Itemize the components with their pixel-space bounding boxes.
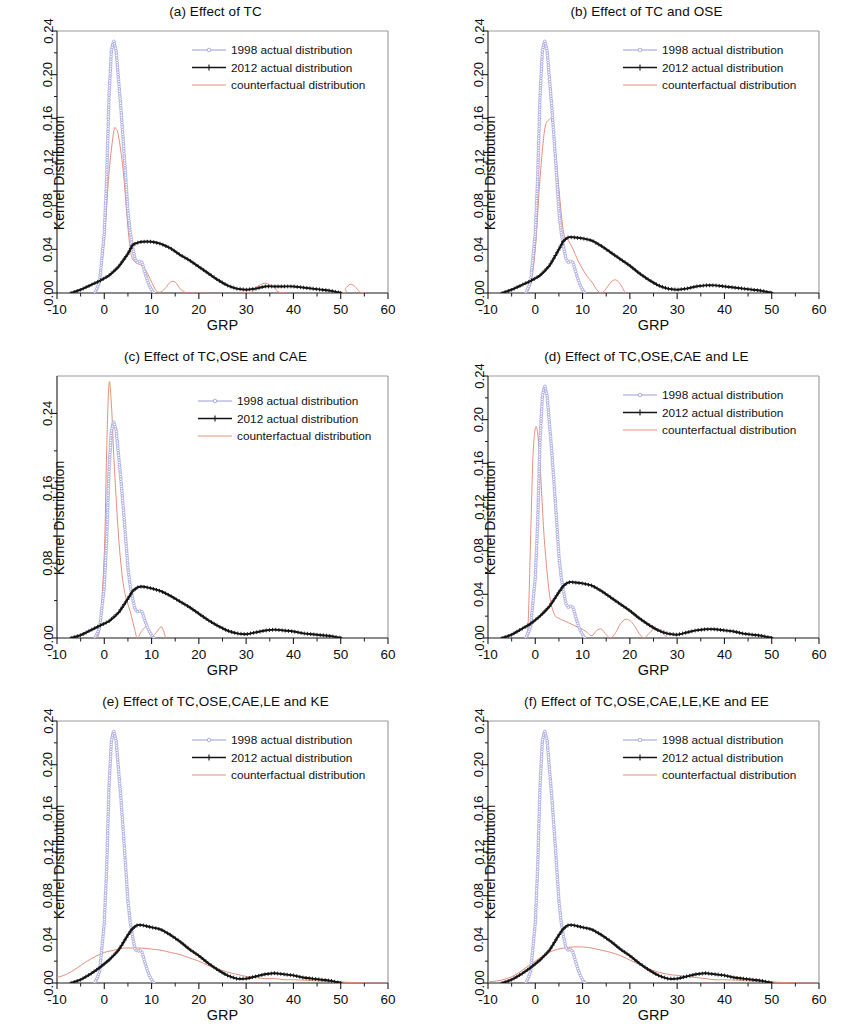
y-tick-label: 0.12 [41,149,56,174]
legend-item[interactable]: 1998 actual distribution [623,388,783,402]
x-tick-label: 10 [144,647,159,662]
x-tick-label: 40 [286,647,301,662]
y-tick-label: 0.08 [41,550,56,575]
legend-item[interactable]: counterfactual distribution [623,78,796,92]
y-tick-label: 0.08 [472,193,487,218]
data-point-marker [729,975,733,979]
data-point-marker [148,925,152,929]
panel-c: (c) Effect of TC,OSE and CAEKernel Distr… [0,345,431,690]
legend-item[interactable]: counterfactual distribution [198,429,371,443]
legend-item[interactable]: counterfactual distribution [623,423,796,437]
plot-area-a: 0.000.040.080.120.160.200.24-10010203040… [0,0,431,345]
x-axis-label: GRP [57,317,388,333]
data-point-marker [686,287,690,291]
legend-item[interactable]: 2012 actual distribution [623,406,783,420]
legend-item[interactable]: 2012 actual distribution [192,751,352,765]
x-tick-label: 20 [191,302,206,317]
legend-item[interactable]: 1998 actual distribution [192,733,352,747]
legend-item[interactable]: 2012 actual distribution [623,751,783,765]
y-tick-label: 0.16 [472,451,487,476]
legend-item[interactable]: counterfactual distribution [623,768,796,782]
data-point-marker [584,982,587,985]
data-point-marker [572,924,576,928]
legend-item[interactable]: 2012 actual distribution [623,61,783,75]
legend-item[interactable]: 2012 actual distribution [192,61,352,75]
series-2012 [69,923,342,985]
y-tick-label: 0.24 [41,18,56,43]
legend-marker-circle-icon [213,399,217,403]
x-tick-label: 60 [380,992,395,1007]
x-tick-label: -10 [478,647,498,662]
series-line [71,586,341,638]
x-tick-label: 20 [191,992,206,1007]
legend-label: 1998 actual distribution [237,394,358,408]
x-axis-label: GRP [488,317,819,333]
x-tick-label: 30 [239,992,254,1007]
data-point-marker [258,630,262,634]
y-tick-label: 0.04 [472,582,487,607]
y-tick-label: 0.20 [472,62,487,87]
legend-item[interactable]: 1998 actual distribution [198,394,358,408]
series-counterfactual [488,947,819,983]
panel-b: (b) Effect of TC and OSEKernel Distribut… [431,0,862,345]
x-tick-label: 0 [101,647,109,662]
panel-f: (f) Effect of TC,OSE,CAE,LE,KE and EEKer… [431,690,862,1033]
y-tick-label: 0.16 [41,796,56,821]
legend-label: 2012 actual distribution [237,412,358,426]
x-tick-label: 30 [239,302,254,317]
x-tick-label: 40 [717,302,732,317]
data-point-marker [151,926,155,930]
x-tick-label: 10 [575,992,590,1007]
series-counterfactual [526,426,668,638]
y-tick-label: 0.08 [472,883,487,908]
series-counterfactual [95,127,365,293]
data-point-marker [582,926,586,930]
data-point-marker [759,289,763,293]
legend-item[interactable]: 2012 actual distribution [198,412,358,426]
legend-item[interactable]: counterfactual distribution [192,78,365,92]
series-2012 [69,240,342,295]
x-tick-label: 50 [764,992,779,1007]
x-tick-label: 0 [532,647,540,662]
x-tick-label: 60 [380,302,395,317]
series-line [502,925,772,983]
data-point-marker [141,924,145,928]
plot-area-d: 0.000.040.080.120.160.200.24-10010203040… [431,345,862,690]
data-point-marker [296,630,300,634]
y-tick-label: 0.16 [472,106,487,131]
legend-item[interactable]: 1998 actual distribution [192,43,352,57]
series-line [57,948,388,983]
legend-item[interactable]: 1998 actual distribution [623,43,783,57]
x-tick-label: 30 [239,647,254,662]
x-tick-label: 20 [622,647,637,662]
x-tick-label: 10 [575,302,590,317]
data-point-marker [693,629,697,633]
x-tick-label: 10 [575,647,590,662]
legend-item[interactable]: counterfactual distribution [192,768,365,782]
x-tick-label: -10 [47,302,67,317]
x-axis: -100102030405060 [47,983,395,1007]
legend-item[interactable]: 1998 actual distribution [623,733,783,747]
data-point-marker [292,973,296,977]
data-point-marker [734,630,738,634]
legend-label: counterfactual distribution [231,78,365,92]
legend: 1998 actual distribution2012 actual dist… [623,388,796,437]
panel-a: (a) Effect of TCKernel Distribution0.000… [0,0,431,345]
y-axis: 0.000.040.080.120.160.200.24 [472,18,489,305]
legend-label: counterfactual distribution [662,423,796,437]
x-tick-label: -10 [478,992,498,1007]
legend-label: 1998 actual distribution [662,733,783,747]
x-tick-label: 40 [286,992,301,1007]
legend-marker-circle-icon [638,738,642,742]
y-tick-label: 0.04 [472,927,487,952]
data-point-marker [142,585,146,589]
legend-label: 1998 actual distribution [662,388,783,402]
x-tick-label: 50 [333,302,348,317]
series-2012 [500,580,773,639]
data-point-marker [675,977,679,981]
x-tick-label: 50 [333,992,348,1007]
x-axis-label: GRP [488,662,819,678]
data-point-marker [760,634,764,638]
y-tick-label: 0.24 [41,401,56,426]
series-counterfactual [57,948,388,983]
